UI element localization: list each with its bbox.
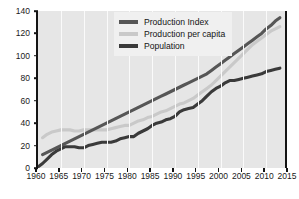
legend-swatch-icon [119,20,138,23]
chart-figure: Production 020406080100120140 1960196519… [0,0,299,199]
legend-item-label: Production per capita [144,30,225,39]
y-tick-label: 60 [6,96,30,106]
x-tick-mark [58,168,60,172]
x-tick-mark [149,168,151,172]
legend-item-label: Population [144,42,185,51]
legend-item: Production Index [119,16,225,28]
x-tick-mark [241,168,243,172]
x-tick-mark [286,168,288,172]
legend-swatch-icon [119,32,138,35]
x-tick-mark [218,168,220,172]
y-tick-label: 20 [6,141,30,151]
x-tick-mark [195,168,197,172]
y-tick-label: 140 [6,6,30,16]
legend-item: Production per capita [119,28,225,40]
legend-item: Population [119,40,225,52]
x-tick-mark [127,168,129,172]
gridline [107,11,108,168]
legend-item-label: Production Index [144,18,209,27]
y-tick-label: 120 [6,28,30,38]
x-tick-mark [81,168,83,172]
x-tick-mark [172,168,174,172]
x-tick-mark [35,168,37,172]
gridline [243,11,244,168]
chart-legend: Production IndexProduction per capitaPop… [114,12,232,56]
x-tick-mark [263,168,265,172]
gridline [61,11,62,168]
gridline [266,11,267,168]
gridline [84,11,85,168]
x-tick-mark [104,168,106,172]
y-tick-label: 80 [6,73,30,83]
legend-swatch-icon [119,44,138,47]
y-tick-label: 40 [6,118,30,128]
x-tick-label: 2015 [270,171,299,181]
y-tick-label: 100 [6,51,30,61]
